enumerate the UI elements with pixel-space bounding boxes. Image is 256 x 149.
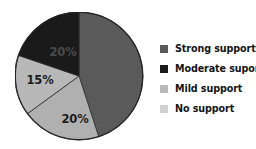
legend-item-strong-support[interactable]: Strong support — [160, 40, 254, 58]
legend-item-no-support[interactable]: No support — [160, 100, 254, 118]
legend-label-strong-support: Strong support — [175, 44, 256, 54]
pie-chart: 20% 15% 20% — [15, 12, 144, 141]
pie-svg: 20% 15% 20% — [15, 12, 144, 141]
legend-swatch-no-support — [160, 105, 168, 113]
legend-item-mild-support[interactable]: Mild support — [160, 80, 254, 98]
legend-swatch-strong-support — [160, 45, 168, 53]
legend-swatch-moderate-support — [160, 65, 168, 73]
pie-chart-figure: 20% 15% 20% Strong support Moderate supo… — [0, 0, 256, 149]
pie-label-mild-support: 15% — [27, 73, 55, 87]
pie-label-no-support: 20% — [62, 112, 90, 126]
pie-label-moderate-support: 20% — [50, 45, 78, 59]
legend-label-mild-support: Mild support — [175, 84, 242, 94]
legend-label-moderate-support: Moderate suport — [175, 64, 256, 74]
legend-item-moderate-support[interactable]: Moderate suport — [160, 60, 254, 78]
legend-label-no-support: No support — [175, 104, 234, 114]
legend: Strong support Moderate suport Mild supp… — [160, 40, 254, 120]
legend-swatch-mild-support — [160, 85, 168, 93]
